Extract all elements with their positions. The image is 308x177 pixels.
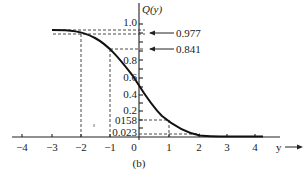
chart-svg: 0.977 0.841 1.0 0.8 0.6 0.4 0.2 0158 0.0… xyxy=(0,0,308,177)
annotation-0977: 0.977 xyxy=(149,27,201,39)
q-function-chart: 0.977 0.841 1.0 0.8 0.6 0.4 0.2 0158 0.0… xyxy=(0,0,308,177)
annotation-label-0977: 0.977 xyxy=(176,27,201,39)
x-tick-label-0: 0 xyxy=(131,141,137,153)
y-tick-label-0.023: 0.023 xyxy=(112,126,137,138)
y-axis-title: Q(y) xyxy=(142,3,162,16)
q-curve xyxy=(52,30,263,137)
y-tick-label-0.4: 0.4 xyxy=(123,88,137,100)
x-tick-label-1: 1 xyxy=(166,141,172,153)
x-tick-label-m4: −4 xyxy=(16,141,28,153)
y-tick-label-0158: 0158 xyxy=(115,114,138,126)
x-axis-title: y xyxy=(276,141,282,153)
x-tick-label-2: 2 xyxy=(196,141,202,153)
y-tick-label-0.6: 0.6 xyxy=(123,71,137,83)
y-tick-label-0.8: 0.8 xyxy=(123,54,137,66)
x-axis-arrow-icon xyxy=(285,145,303,150)
x-tick-label-m1: −1 xyxy=(104,141,116,153)
x-tick-label-4: 4 xyxy=(252,141,258,153)
y-tick-label-1.0: 1.0 xyxy=(123,16,137,28)
x-tick-label-m3: −3 xyxy=(46,141,58,153)
x-tick-label-3: 3 xyxy=(224,141,230,153)
annotation-0841: 0.841 xyxy=(149,43,201,55)
y-ticks xyxy=(139,24,143,128)
annotation-label-0841: 0.841 xyxy=(176,43,201,55)
figure-caption: (b) xyxy=(133,157,146,170)
x-tick-label-m2: −2 xyxy=(75,141,87,153)
